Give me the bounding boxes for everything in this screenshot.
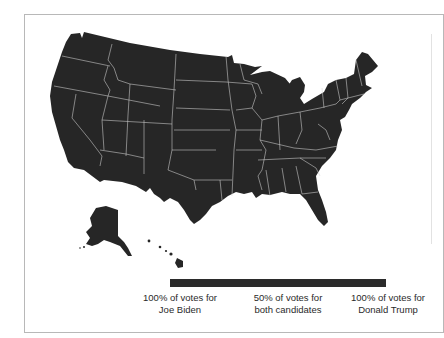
- legend-color-bar: [170, 279, 386, 287]
- legend-label-line: 100% of votes for: [132, 292, 228, 304]
- alaska-inset: [79, 206, 132, 256]
- contiguous-us: [50, 32, 378, 226]
- legend-label-line: Donald Trump: [340, 304, 436, 316]
- legend-label-biden: 100% of votes for Joe Biden: [132, 292, 228, 316]
- legend-label-line: 100% of votes for: [340, 292, 436, 304]
- legend-label-trump: 100% of votes for Donald Trump: [340, 292, 436, 316]
- legend-label-both: 50% of votes for both candidates: [240, 292, 336, 316]
- hawaii-inset: [148, 240, 183, 268]
- legend-label-line: Joe Biden: [132, 304, 228, 316]
- legend-label-line: both candidates: [240, 304, 336, 316]
- legend-label-line: 50% of votes for: [240, 292, 336, 304]
